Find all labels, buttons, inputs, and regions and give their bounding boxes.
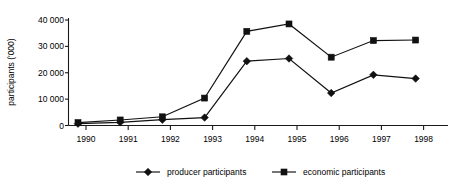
legend-label: economic participants <box>303 167 385 177</box>
y-tick-label-group: 010 00020 00030 00040 000 <box>38 15 64 131</box>
square-marker <box>413 37 419 43</box>
legend-label: producer participants <box>167 167 246 177</box>
x-tick-label: 1995 <box>288 134 307 144</box>
x-tick-label-group: 199019911992199319941995199619971998 <box>77 134 434 144</box>
y-tick-label: 10 000 <box>38 94 64 104</box>
square-marker <box>75 120 81 126</box>
x-tick-label: 1997 <box>372 134 391 144</box>
square-marker <box>281 169 287 175</box>
x-tick-mark-group <box>86 126 424 131</box>
x-tick-label: 1992 <box>161 134 180 144</box>
square-marker <box>370 38 376 44</box>
y-axis-title: participants ('000) <box>6 38 16 105</box>
square-marker <box>202 95 208 101</box>
legend-item-2[interactable]: economic participants <box>272 167 385 177</box>
x-tick-label: 1994 <box>245 134 264 144</box>
series-layer <box>74 21 419 127</box>
series-1 <box>74 55 419 128</box>
x-tick-label: 1990 <box>77 134 96 144</box>
x-tick-label: 1998 <box>414 134 433 144</box>
square-marker <box>159 114 165 120</box>
series-2 <box>75 21 419 126</box>
diamond-marker <box>144 168 152 176</box>
series-line <box>78 59 416 124</box>
chart-container: participants ('000) 010 00020 00030 0004… <box>0 0 458 192</box>
series-line <box>78 24 416 123</box>
diamond-marker <box>412 75 420 83</box>
x-tick-label: 1993 <box>203 134 222 144</box>
square-marker <box>286 21 292 27</box>
x-tick-label: 1996 <box>330 134 349 144</box>
y-tick-label: 0 <box>59 121 64 131</box>
y-tick-label: 20 000 <box>38 68 64 78</box>
chart-legend: producer participantseconomic participan… <box>136 167 385 177</box>
y-axis-title-group: participants ('000) <box>6 38 16 105</box>
y-tick-label: 30 000 <box>38 41 64 51</box>
y-tick-label: 40 000 <box>38 15 64 25</box>
line-chart: participants ('000) 010 00020 00030 0004… <box>0 0 458 192</box>
x-tick-label: 1991 <box>119 134 138 144</box>
square-marker <box>117 117 123 123</box>
diamond-marker <box>370 71 378 79</box>
legend-item-1[interactable]: producer participants <box>136 167 246 177</box>
square-marker <box>244 28 250 34</box>
square-marker <box>328 54 334 60</box>
